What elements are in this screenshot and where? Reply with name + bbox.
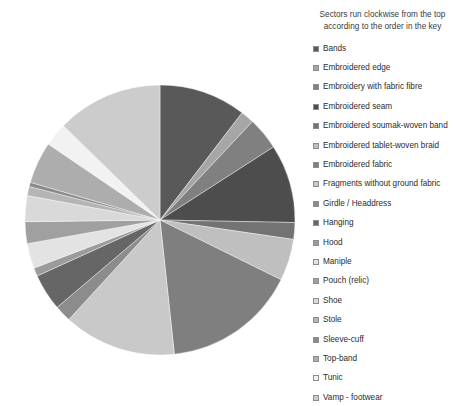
legend-item-label: Shoe [323,296,342,306]
legend-swatch-icon [313,356,319,362]
chart-legend: Sectors run clockwise from the top accor… [306,0,459,406]
legend-item[interactable]: Pouch (relic) [306,272,459,291]
legend-swatch-icon [313,395,319,401]
legend-swatch-icon [313,337,319,343]
legend-item[interactable]: Embroidered tablet-woven braid [306,136,459,155]
legend-item-label: Maniple [323,257,352,267]
legend-swatch-icon [313,65,319,71]
legend-item[interactable]: Embroidered fabric [306,155,459,174]
legend-swatch-icon [313,143,319,149]
legend-item[interactable]: Bands [306,39,459,58]
legend-item[interactable]: Embroidered soumak-woven band [306,117,459,136]
legend-swatch-icon [313,298,319,304]
legend-item-label: Embroidered tablet-woven braid [323,141,439,151]
legend-swatch-icon [313,84,319,90]
legend-item-label: Embroidery with fabric fibre [323,82,422,92]
legend-swatch-icon [313,240,319,246]
legend-item-label: Girdle / Headdress [323,199,391,209]
legend-item[interactable]: Embroidery with fabric fibre [306,78,459,97]
legend-item[interactable]: Maniple [306,252,459,271]
legend-swatch-icon [313,278,319,284]
pie-chart-figure: Sectors run clockwise from the top accor… [0,0,459,406]
legend-items-list: BandsEmbroidered edgeEmbroidery with fab… [306,39,459,406]
legend-item-label: Hanging [323,218,354,228]
legend-item-label: Embroidered seam [323,102,392,112]
legend-item-label: Pouch (relic) [323,276,369,286]
legend-item-label: Tunic [323,373,343,383]
legend-swatch-icon [313,181,319,187]
legend-swatch-icon [313,104,319,110]
legend-item-label: Vamp - footwear [323,393,382,403]
legend-swatch-icon [313,375,319,381]
legend-item[interactable]: Vamp - footwear [306,388,459,406]
pie-svg [0,0,300,406]
legend-item[interactable]: Stole [306,310,459,329]
legend-note: Sectors run clockwise from the top accor… [306,0,459,32]
legend-swatch-icon [313,201,319,207]
legend-item-label: Embroidered fabric [323,160,392,170]
legend-note-line-1: Sectors run clockwise from the top [308,9,457,21]
legend-item[interactable]: Tunic [306,369,459,388]
legend-swatch-icon [313,220,319,226]
legend-swatch-icon [313,317,319,323]
legend-item[interactable]: Top-band [306,349,459,368]
legend-item-label: Sleeve-cuff [323,335,364,345]
legend-item[interactable]: Shoe [306,291,459,310]
legend-item[interactable]: Hanging [306,214,459,233]
legend-item-label: Top-band [323,354,357,364]
legend-item[interactable]: Embroidered edge [306,58,459,77]
legend-item[interactable]: Fragments without ground fabric [306,175,459,194]
legend-item-label: Bands [323,44,346,54]
legend-item[interactable]: Sleeve-cuff [306,330,459,349]
legend-item-label: Stole [323,315,342,325]
legend-item[interactable]: Girdle / Headdress [306,194,459,213]
pie-plot-area [0,0,300,406]
legend-item-label: Hood [323,238,343,248]
legend-item[interactable]: Embroidered seam [306,97,459,116]
legend-item-label: Fragments without ground fabric [323,179,440,189]
legend-swatch-icon [313,46,319,52]
legend-note-line-2: according to the order in the key [308,21,457,33]
legend-item-label: Embroidered soumak-woven band [323,121,448,131]
legend-item[interactable]: Hood [306,233,459,252]
pie-sectors-group [25,85,295,355]
legend-swatch-icon [313,162,319,168]
legend-item-label: Embroidered edge [323,63,390,73]
legend-swatch-icon [313,123,319,129]
legend-swatch-icon [313,259,319,265]
